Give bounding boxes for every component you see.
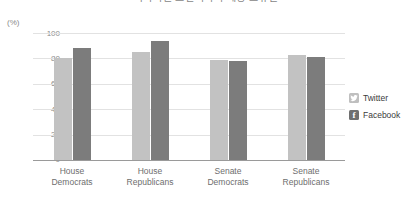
bar-group-house-democrats xyxy=(33,33,111,160)
x-label-line1: House xyxy=(33,166,111,177)
legend-label-facebook: Facebook xyxy=(363,111,400,120)
facebook-f-glyph: f xyxy=(353,111,356,120)
plot-area xyxy=(33,33,345,160)
bar-twitter-house-republicans xyxy=(132,52,150,160)
x-label-house-democrats: House Democrats xyxy=(33,166,111,200)
bar-facebook-senate-democrats xyxy=(229,61,247,160)
bar-facebook-house-democrats xyxy=(73,48,91,160)
legend-item-facebook: f Facebook xyxy=(349,110,400,120)
x-label-line2: Republicans xyxy=(111,177,189,188)
chart-title-clipped: 국회의원 소셜미디어 계정 보유율 xyxy=(0,0,412,2)
y-axis-unit-label: (%) xyxy=(7,19,19,27)
legend-item-twitter: Twitter xyxy=(349,93,400,103)
chart-legend: Twitter f Facebook xyxy=(349,93,400,120)
bar-group-senate-republicans xyxy=(267,33,345,160)
x-label-line1: Senate xyxy=(267,166,345,177)
chart-figure: 국회의원 소셜미디어 계정 보유율 (%) 100 80 60 40 20 0 xyxy=(0,0,412,209)
twitter-bird-icon xyxy=(349,93,359,103)
x-axis-labels: House Democrats House Republicans Senate… xyxy=(33,166,345,200)
x-label-senate-republicans: Senate Republicans xyxy=(267,166,345,200)
x-label-line2: Republicans xyxy=(267,177,345,188)
x-label-line2: Democrats xyxy=(189,177,267,188)
axis-baseline xyxy=(33,160,345,161)
bar-facebook-house-republicans xyxy=(151,41,169,160)
x-label-line1: House xyxy=(111,166,189,177)
x-label-line2: Democrats xyxy=(33,177,111,188)
bar-groups xyxy=(33,33,345,160)
bar-facebook-senate-republicans xyxy=(307,57,325,160)
bar-twitter-senate-republicans xyxy=(288,55,306,160)
bar-twitter-house-democrats xyxy=(54,58,72,160)
facebook-f-icon: f xyxy=(349,110,359,120)
bar-twitter-senate-democrats xyxy=(210,60,228,160)
x-label-senate-democrats: Senate Democrats xyxy=(189,166,267,200)
page-title: 국회의원 소셜미디어 계정 보유율 xyxy=(0,0,412,2)
x-label-house-republicans: House Republicans xyxy=(111,166,189,200)
legend-label-twitter: Twitter xyxy=(363,94,388,103)
bar-group-house-republicans xyxy=(111,33,189,160)
bar-group-senate-democrats xyxy=(189,33,267,160)
x-label-line1: Senate xyxy=(189,166,267,177)
